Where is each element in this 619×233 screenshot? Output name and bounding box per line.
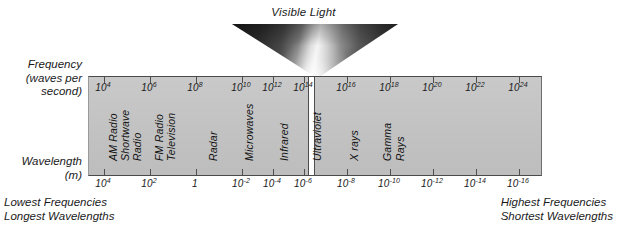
wavelength-tick-label: 10-10 — [378, 178, 400, 189]
frequency-tick-label: 1024 — [508, 82, 528, 93]
frequency-tick-label-exponent: 6 — [153, 81, 157, 88]
frequency-tick-label-exponent: 24 — [520, 81, 528, 88]
wavelength-tick-label: 10-6 — [294, 178, 312, 189]
frequency-tick-label: 104 — [95, 82, 111, 93]
spectrum-band-radio: Radio — [131, 133, 143, 161]
wavelength-tick-label-exponent: -4 — [274, 177, 281, 184]
spectrum-band-gamma: Gamma — [381, 123, 393, 161]
wavelength-tick-label-exponent: -12 — [432, 177, 443, 184]
spectrum-band-microwaves: Microwaves — [243, 104, 255, 161]
wavelength-tick-label: 10-2 — [232, 178, 250, 189]
frequency-tick-label: 1020 — [422, 82, 442, 93]
wavelength-tick-label: 102 — [141, 178, 157, 189]
axis-tick — [347, 169, 348, 175]
highest-frequencies-line: Highest Frequencies — [501, 196, 613, 210]
wavelength-caption-line-2: (m) — [0, 169, 82, 183]
frequency-tick-label-exponent: 4 — [107, 81, 111, 88]
wavelength-tick-label: 10-8 — [337, 178, 355, 189]
spectrum-band-am-radio: AM Radio — [107, 113, 119, 161]
frequency-tick-label-exponent: 14 — [305, 81, 313, 88]
axis-tick — [304, 169, 305, 175]
highest-frequencies-caption: Highest Frequencies Shortest Wavelengths — [501, 196, 613, 223]
frequency-tick-label: 1010 — [231, 82, 251, 93]
wavelength-tick-label-exponent: 4 — [107, 177, 111, 184]
wavelength-tick-label-exponent: -2 — [243, 177, 250, 184]
wavelength-tick-label: 10-4 — [263, 178, 281, 189]
spectrum-band-radar: Radar — [207, 131, 219, 161]
spectrum-band-television: Television — [165, 113, 177, 161]
frequency-axis-caption: Frequency (waves per second) — [0, 58, 82, 99]
axis-tick — [476, 169, 477, 175]
frequency-tick-label: 1016 — [336, 82, 356, 93]
axis-tick — [433, 169, 434, 175]
frequency-tick-label: 1018 — [379, 82, 399, 93]
frequency-tick-label-exponent: 20 — [434, 81, 442, 88]
shortest-wavelengths-line: Shortest Wavelengths — [501, 210, 613, 224]
frequency-caption-line-3: second) — [0, 85, 82, 99]
wavelength-tick-label-exponent: -14 — [475, 177, 486, 184]
wavelength-axis-caption: Wavelength (m) — [0, 155, 82, 182]
frequency-tick-label: 106 — [141, 82, 157, 93]
axis-tick — [196, 169, 197, 175]
longest-wavelengths-line: Longest Wavelengths — [4, 210, 114, 224]
wavelength-tick-label-exponent: -10 — [389, 177, 400, 184]
lowest-frequencies-caption: Lowest Frequencies Longest Wavelengths — [4, 196, 114, 223]
frequency-tick-label: 108 — [187, 82, 203, 93]
frequency-tick-label: 1022 — [465, 82, 485, 93]
frequency-tick-label: 1012 — [262, 82, 282, 93]
visible-light-cone — [232, 24, 398, 76]
spectrum-band-infrared: Infrared — [278, 123, 290, 161]
axis-tick — [390, 169, 391, 175]
wavelength-tick-label: 10-12 — [421, 178, 443, 189]
spectrum-band-rays: Rays — [394, 136, 406, 161]
wavelength-tick-label-exponent: -6 — [305, 177, 312, 184]
spectrum-band-shortwave: Shortwave — [119, 110, 131, 161]
wavelength-tick-label: 104 — [95, 178, 111, 189]
frequency-tick-label-exponent: 8 — [199, 81, 203, 88]
wavelength-tick-label: 1 — [192, 178, 198, 189]
frequency-tick-label-exponent: 16 — [348, 81, 356, 88]
wavelength-tick-label-exponent: -16 — [518, 177, 529, 184]
wavelength-tick-label: 10-16 — [507, 178, 529, 189]
axis-tick — [242, 169, 243, 175]
axis-tick — [104, 169, 105, 175]
frequency-tick-label-exponent: 22 — [477, 81, 485, 88]
axis-tick — [150, 169, 151, 175]
frequency-tick-label: 1014 — [293, 82, 313, 93]
visible-light-title-text: Visible Light — [271, 6, 335, 18]
frequency-tick-label-exponent: 12 — [274, 81, 282, 88]
frequency-caption-line-2: (waves per — [0, 72, 82, 86]
spectrum-band-ultraviolet: Ultraviolet — [311, 112, 323, 161]
frequency-caption-line-1: Frequency — [0, 58, 82, 72]
spectrum-band-fm-radio: FM Radio — [153, 114, 165, 161]
wavelength-tick-label: 10-14 — [464, 178, 486, 189]
wavelength-tick-label-exponent: 2 — [153, 177, 157, 184]
spectrum-band-x-rays: X rays — [348, 130, 360, 161]
lowest-frequencies-line: Lowest Frequencies — [4, 196, 114, 210]
frequency-tick-label-exponent: 10 — [243, 81, 251, 88]
wavelength-caption-line-1: Wavelength — [0, 155, 82, 169]
frequency-tick-label-exponent: 18 — [391, 81, 399, 88]
axis-tick — [273, 169, 274, 175]
wavelength-tick-label-exponent: -8 — [348, 177, 355, 184]
visible-light-title: Visible Light — [0, 6, 619, 18]
axis-tick — [519, 169, 520, 175]
